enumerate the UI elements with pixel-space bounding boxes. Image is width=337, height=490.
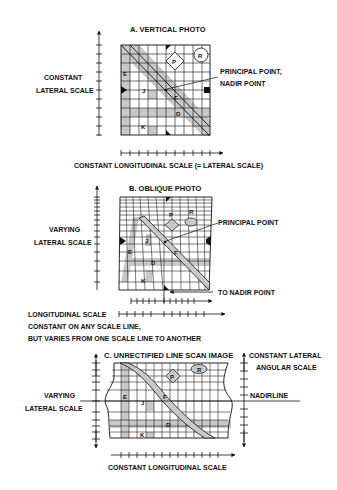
figure: A. VERTICAL PHOTO CONSTANT LATERAL SCALE — [0, 0, 337, 490]
svg-text:F: F — [163, 394, 167, 400]
panel-c-left-label-1: VARYING — [44, 392, 76, 399]
svg-text:F: F — [174, 250, 178, 256]
panel-a-callout-1: PRINCIPAL POINT, — [220, 68, 282, 76]
svg-text:J: J — [142, 88, 145, 94]
principal-point-marker — [165, 89, 168, 92]
panel-b-lateral-axis — [94, 186, 100, 290]
panel-c-right-label-2: ANGULAR SCALE — [256, 364, 317, 371]
svg-text:D: D — [176, 111, 181, 117]
panel-a-lateral-axis — [96, 31, 102, 136]
panel-c-line-scan: C. UNRECTIFIED LINE SCAN IMAGE VARYING L… — [25, 351, 322, 471]
svg-text:J: J — [145, 238, 148, 244]
panel-c-bottom-label: CONSTANT LONGITUDINAL SCALE — [108, 464, 227, 471]
panel-b-left-label-2: LATERAL SCALE — [34, 239, 92, 246]
panel-b-callout: PRINCIPAL POINT — [218, 219, 279, 226]
svg-text:R: R — [198, 53, 203, 59]
feature-p-diamond — [165, 219, 179, 231]
svg-text:R: R — [189, 209, 194, 215]
panel-c-title: C. UNRECTIFIED LINE SCAN IMAGE — [104, 351, 233, 360]
panel-b-nadir-label: TO NADIR POINT — [218, 289, 276, 296]
panel-b-scale-line-1 — [131, 298, 212, 304]
panel-c-angular-axis — [240, 353, 248, 447]
feature-r-ellipse — [185, 218, 197, 226]
svg-text:P: P — [169, 212, 173, 218]
panel-c-nadirline-label: NADIRLINE — [250, 392, 288, 399]
panel-a-callout-2: NADIR POINT — [220, 80, 266, 87]
svg-text:E: E — [123, 71, 127, 77]
svg-text:K: K — [141, 124, 146, 130]
panel-a-left-label-1: CONSTANT — [44, 74, 83, 81]
panel-c-left-label-2: LATERAL SCALE — [25, 405, 83, 412]
panel-b-title: B. OBLIQUE PHOTO — [129, 184, 202, 193]
panel-c-right-label-1: CONSTANT LATERAL — [249, 352, 322, 359]
panel-b-bottom-label-1: LONGITUDINAL SCALE — [28, 311, 107, 318]
panel-c-longitudinal-axis — [111, 452, 235, 458]
panel-a-left-label-2: LATERAL SCALE — [36, 87, 94, 94]
panel-b-scale-line-2 — [119, 311, 225, 317]
svg-text:K: K — [140, 432, 145, 438]
svg-text:P: P — [172, 59, 176, 65]
svg-text:D: D — [166, 422, 171, 428]
panel-a-longitudinal-axis — [121, 150, 223, 156]
svg-text:D: D — [151, 260, 156, 266]
panel-b-left-label-1: VARYING — [49, 226, 81, 233]
panel-b-bottom-label-2: CONSTANT ON ANY SCALE LINE, — [28, 323, 141, 331]
panel-a-title: A. VERTICAL PHOTO — [130, 25, 206, 34]
svg-text:E: E — [123, 394, 127, 400]
panel-b-bottom-label-3: BUT VARIES FROM ONE SCALE LINE TO ANOTHE… — [28, 335, 201, 342]
svg-text:E: E — [128, 249, 132, 255]
svg-text:F: F — [174, 95, 178, 101]
panel-b-oblique-photo: B. OBLIQUE PHOTO VARYING LATERAL SCALE — [28, 184, 279, 342]
panel-a-bottom-label: CONSTANT LONGITUDINAL SCALE (= LATERAL S… — [74, 162, 263, 170]
panel-a-vertical-photo: A. VERTICAL PHOTO CONSTANT LATERAL SCALE — [36, 25, 282, 170]
svg-text:P: P — [170, 374, 174, 380]
svg-text:R: R — [197, 367, 202, 373]
svg-text:K: K — [141, 278, 146, 284]
